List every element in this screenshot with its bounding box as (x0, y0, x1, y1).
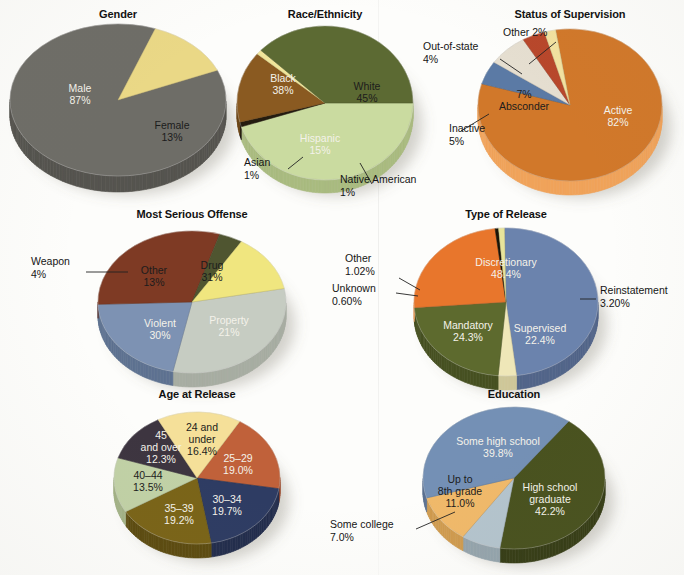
callout-label: 4% (31, 268, 46, 280)
slice-label: Other (141, 264, 168, 276)
chart-title-education: Education (488, 388, 540, 400)
slice-label: 31% (201, 271, 222, 283)
pie-slice (240, 103, 325, 127)
pie-slice (523, 32, 570, 105)
slice-label: 87% (69, 94, 90, 106)
slice-label: White (354, 80, 381, 92)
pie-slice (478, 29, 662, 181)
pie-slice (427, 478, 514, 537)
slice-label: 15% (309, 144, 330, 156)
slice-label: Absconder (499, 100, 550, 112)
slice-label: Some high school (456, 435, 539, 447)
pie-slice (500, 421, 605, 549)
pie-chart-education: High schoolgraduate42.2%Up to8th grade11… (0, 0, 684, 575)
slice-label: 24.3% (453, 331, 483, 343)
slice-label: 30% (149, 329, 170, 341)
slice-label: 13% (143, 276, 164, 288)
slice-label: 12.3% (146, 453, 176, 465)
slice-label: 19.7% (212, 505, 242, 517)
callout-label: 1% (244, 169, 259, 181)
pie-slice (423, 407, 569, 498)
pie-slice (414, 302, 506, 376)
slice-label: Female (154, 119, 189, 131)
pie-slice (197, 478, 279, 543)
slice-label: 7% (516, 88, 531, 100)
pie-slice (463, 478, 514, 548)
slice-label: Male (69, 82, 92, 94)
slice-label: 8th grade (438, 485, 483, 497)
callout-label: 3.20% (600, 297, 630, 309)
slice-label: Property (209, 314, 249, 326)
slice-label: 30–34 (212, 493, 241, 505)
slice-label: 21% (218, 326, 239, 338)
callout-label: 0.60% (332, 295, 362, 307)
pie-slice (257, 50, 325, 103)
pie-slice (241, 103, 413, 180)
callout-leader-line (396, 293, 418, 296)
pie-slice (494, 40, 570, 105)
slice-label: 45% (356, 92, 377, 104)
pie-slice (126, 478, 211, 544)
slice-label: 48.4% (491, 268, 521, 280)
pie-slice (192, 242, 284, 302)
slice-label: Drug (201, 259, 224, 271)
callout-label: Some college (330, 518, 394, 530)
pie-slice (544, 30, 570, 105)
chart-title-most-serious-offense: Most Serious Offense (136, 208, 247, 220)
pie-chart-gender: Male87%Female13% (0, 0, 684, 575)
callout-label: Out-of-state (423, 40, 479, 52)
callout-label: Asian (244, 156, 270, 168)
pie-slice (482, 62, 570, 105)
pie-slice (10, 24, 226, 176)
slice-label: 39.8% (483, 447, 513, 459)
callout-label: Other 2% (503, 26, 547, 38)
pie-chart-type-of-release: Discretionary48.4%Supervised22.4%Mandato… (0, 0, 684, 575)
callout-label: 1% (340, 186, 355, 198)
slice-label: 19.0% (223, 464, 253, 476)
slice-label: Hispanic (300, 132, 340, 144)
pie-slice (498, 302, 516, 376)
slice-label: Mandatory (443, 319, 493, 331)
slice-label: 35–39 (164, 502, 193, 514)
pie-slice (414, 229, 506, 308)
callout-label: Reinstatement (600, 284, 668, 296)
callout-label: Unknown (332, 282, 376, 294)
callout-leader-line (360, 163, 372, 184)
slice-label: 40–44 (133, 469, 162, 481)
pie-slice (98, 231, 220, 304)
callout-label: 4% (423, 53, 438, 65)
pie-slice (495, 228, 506, 302)
pie-slice (261, 26, 413, 103)
pie-slice (504, 228, 598, 376)
slice-label: 11.0% (446, 497, 475, 509)
figure-canvas: GenderMale87%Female13%Race/EthnicityWhit… (0, 0, 684, 575)
pie-slice (118, 420, 197, 478)
slice-label: Violent (144, 317, 176, 329)
pie-slice (98, 302, 192, 372)
chart-title-type-of-release: Type of Release (465, 208, 546, 220)
slice-label: 24 and (186, 421, 218, 433)
callout-leader-line (461, 114, 489, 131)
paper-fold (378, 0, 379, 575)
slice-label: graduate (529, 493, 571, 505)
slice-label: under (189, 433, 216, 445)
callout-label: Inactive (449, 122, 485, 134)
slice-label: 13% (161, 131, 182, 143)
chart-title-status-of-supervision: Status of Supervision (515, 8, 626, 20)
callout-label: 7.0% (330, 531, 354, 543)
callout-label: Weapon (31, 255, 70, 267)
callout-leader-line (500, 59, 522, 74)
pie-chart-status-of-supervision: Active82%7%AbsconderOther 2%Out-of-state… (0, 0, 684, 575)
callout-label: 1.02% (345, 265, 375, 277)
chart-title-gender: Gender (99, 8, 137, 20)
pie-slice (118, 29, 217, 100)
slice-label: and over (141, 441, 182, 453)
pie-chart-most-serious-offense: Drug31%Property21%Violent30%Other13%Weap… (0, 0, 684, 575)
callout-label: 5% (449, 135, 464, 147)
slice-label: Black (270, 72, 296, 84)
pie-slice (499, 228, 506, 302)
callout-leader-line (529, 42, 556, 64)
pie-slice (197, 421, 280, 488)
slice-label: 38% (272, 84, 293, 96)
callout-leader-line (288, 157, 303, 169)
